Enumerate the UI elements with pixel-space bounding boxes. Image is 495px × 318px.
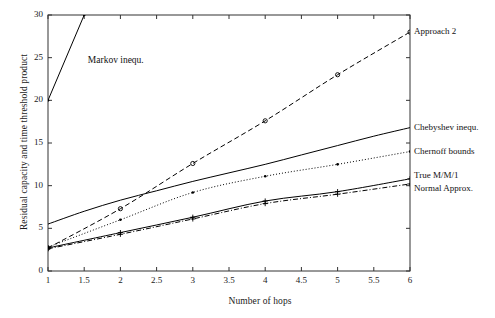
series-5 xyxy=(45,181,412,251)
axis-ticks xyxy=(48,15,410,271)
y-tick-label: 25 xyxy=(17,52,43,62)
series-label-true-m-m-1: True M/M/1 xyxy=(414,170,458,181)
y-tick-label: 15 xyxy=(17,137,43,147)
series-label-normal-approx: Normal Approx. xyxy=(414,183,473,194)
series-label-approach-2: Approach 2 xyxy=(414,26,456,37)
y-tick-label: 5 xyxy=(17,222,43,232)
x-axis-title: Number of hops xyxy=(170,296,350,306)
series-3 xyxy=(47,150,412,248)
x-tick-label: 4.5 xyxy=(286,275,316,285)
y-tick-label: 30 xyxy=(17,9,43,19)
x-tick-label: 6 xyxy=(395,275,425,285)
y-tick-label: 0 xyxy=(17,265,43,275)
x-tick-label: 1 xyxy=(33,275,63,285)
x-tick-label: 2.5 xyxy=(142,275,172,285)
y-tick-label: 20 xyxy=(17,94,43,104)
x-tick-label: 2 xyxy=(105,275,135,285)
series-4 xyxy=(45,176,412,250)
series-label-chebyshev-inequ: Chebyshev inequ. xyxy=(414,122,479,133)
annotation-label: Markov inequ. xyxy=(88,55,144,65)
chart-container: Residual capacity and time threshold pro… xyxy=(0,0,495,318)
x-tick-label: 3.5 xyxy=(214,275,244,285)
x-tick-label: 5 xyxy=(323,275,353,285)
x-tick-label: 5.5 xyxy=(359,275,389,285)
plot-frame xyxy=(48,15,410,271)
x-tick-label: 3 xyxy=(178,275,208,285)
plot-area xyxy=(0,0,495,318)
series-0 xyxy=(47,14,86,102)
x-tick-label: 1.5 xyxy=(69,275,99,285)
y-tick-label: 10 xyxy=(17,180,43,190)
x-tick-label: 4 xyxy=(250,275,280,285)
data-series-group xyxy=(45,14,412,252)
series-label-chernoff-bounds: Chernoff bounds xyxy=(414,146,475,157)
